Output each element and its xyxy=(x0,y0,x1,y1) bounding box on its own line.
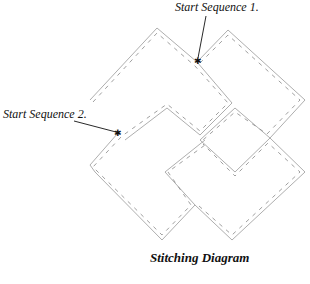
upper-left-stitch-path xyxy=(90,28,232,140)
diagram-title: Stitching Diagram xyxy=(150,250,249,266)
pointer-line-1 xyxy=(198,16,206,58)
pointer-line-2 xyxy=(74,121,116,132)
start-marker-2-icon: ✱ xyxy=(114,128,122,138)
lower-left-stitch-path xyxy=(90,133,205,240)
upper-right-stitch-path xyxy=(197,30,305,140)
start-marker-1-icon: ✱ xyxy=(194,56,202,66)
start-sequence-2-label: Start Sequence 2. xyxy=(3,107,87,122)
stitch-pattern-graphic: ✱ ✱ xyxy=(0,0,310,284)
start-sequence-1-label: Start Sequence 1. xyxy=(175,0,259,15)
stitching-diagram: ✱ ✱ Start Sequence 1. Start Sequence 2. … xyxy=(0,0,310,284)
lower-right-stitch-path xyxy=(195,138,305,240)
